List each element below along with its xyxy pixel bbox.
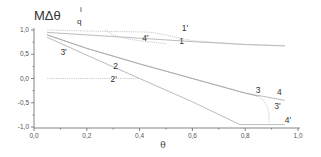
curve-label: 4' (142, 33, 149, 43)
y-tick-label: 0,0 (20, 75, 29, 82)
curve-label: 3' (274, 101, 281, 111)
y-tick-label: 1,0 (20, 26, 29, 33)
x-axis-label: θ (160, 140, 165, 150)
curve-label: 4' (285, 115, 292, 125)
curve-label: 3 (256, 85, 261, 95)
x-tick-label: 0,4 (135, 132, 144, 139)
y-tick-label: -1,0 (18, 123, 30, 130)
series-1 (47, 32, 285, 46)
chart: MΔθ q i 1,00,50,0-0,5-1,0 0,00,20,40,60,… (0, 0, 321, 157)
series-1-prime (47, 30, 285, 46)
x-tick-label: 0,2 (82, 132, 91, 139)
curve-label: 1 (179, 36, 184, 46)
y-tick-label: 0,5 (20, 50, 29, 57)
series-3 (47, 35, 258, 97)
y-axis-label: MΔθ (34, 8, 61, 23)
y-axis-label-superscript: i (80, 5, 82, 14)
x-tick-label: 0,8 (241, 132, 250, 139)
series-3-prime (258, 96, 269, 122)
plot-series (47, 30, 285, 125)
y-ticks: 1,00,50,0-0,5-1,0 (18, 26, 34, 130)
x-tick-label: 0,6 (188, 132, 197, 139)
x-tick-label: 1,0 (293, 132, 302, 139)
curve-label: 3' (60, 47, 67, 57)
y-tick-label: -0,5 (18, 99, 30, 106)
series-2 (47, 37, 285, 124)
curve-label: 4 (277, 87, 282, 97)
curve-label: 2' (111, 74, 118, 84)
x-tick-label: 0,0 (29, 132, 38, 139)
curve-label: 1' (182, 23, 189, 33)
y-axis-label-subscript: q (77, 17, 81, 26)
x-ticks: 0,00,20,40,60,81,0 (29, 128, 302, 139)
curve-label: 2 (113, 61, 118, 71)
